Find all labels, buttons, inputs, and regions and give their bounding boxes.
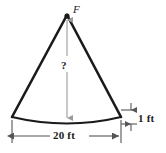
sagitta-dimension-label: 1 ft: [138, 113, 154, 124]
vertex-dot-icon: [64, 13, 69, 18]
apex-label-f: F: [73, 4, 80, 15]
right-leg: [67, 15, 121, 117]
left-leg: [12, 15, 67, 117]
height-dimension-label: ?: [61, 60, 67, 71]
geometry-figure: F ? 20 ft 1 ft: [0, 0, 166, 153]
sagitta-dimension-line: [121, 103, 137, 131]
figure-canvas: [0, 0, 166, 153]
base-dimension-label: 20 ft: [53, 130, 75, 141]
